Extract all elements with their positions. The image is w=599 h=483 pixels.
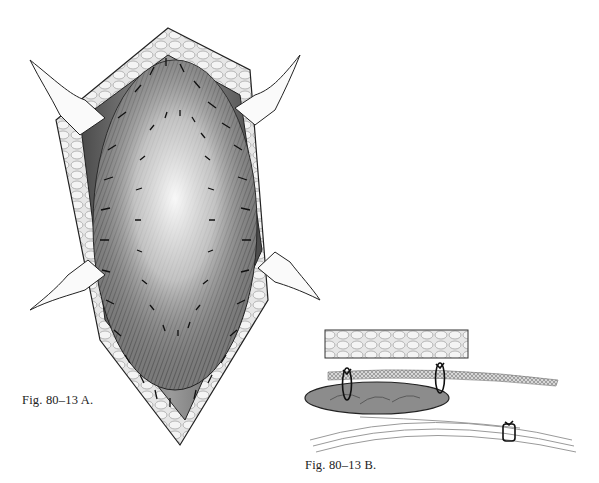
figure-caption-b: Fig. 80–13 B. [305, 458, 376, 473]
panel-a-illustration [30, 28, 320, 445]
panel-b-illustration [305, 330, 576, 452]
figure-illustration [0, 0, 599, 483]
figure-caption-a: Fig. 80–13 A. [22, 393, 93, 408]
